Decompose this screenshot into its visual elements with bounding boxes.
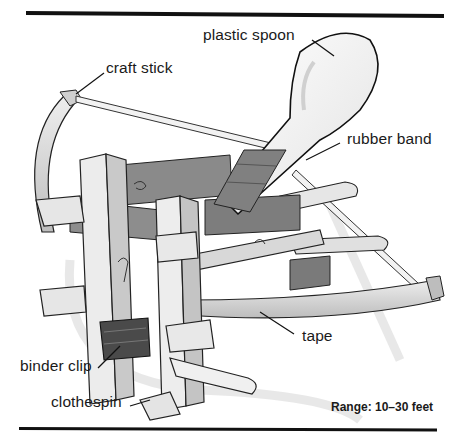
binder-clip: [100, 318, 150, 360]
leader-craft-stick: [76, 73, 104, 94]
label-rubber-band: rubber band: [347, 130, 432, 148]
catapult-illustration: [0, 0, 458, 442]
label-plastic-spoon: plastic spoon: [203, 26, 295, 44]
label-clothespin: clothespin: [51, 393, 122, 411]
label-craft-stick: craft stick: [106, 59, 173, 77]
label-binder-clip: binder clip: [20, 357, 92, 375]
label-tape: tape: [302, 327, 333, 345]
range-note: Range: 10–30 feet: [331, 400, 433, 414]
